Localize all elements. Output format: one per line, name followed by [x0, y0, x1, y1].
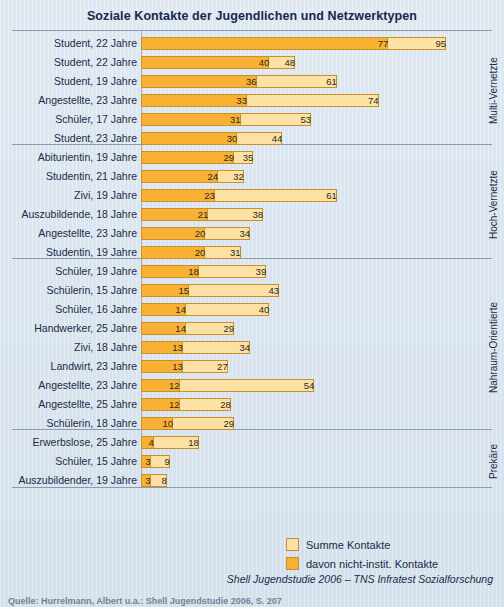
bar-value-total: 44: [237, 132, 282, 145]
bar-value-nicht-instit: 18: [141, 265, 199, 278]
chart-legend: Summe Kontakte davon nicht-instit. Konta…: [286, 536, 438, 574]
bar-group: 3153: [141, 113, 311, 126]
bar-value-nicht-instit: 29: [141, 151, 234, 164]
chart-source: Shell Jugendstudie 2006 – TNS Infratest …: [227, 573, 493, 585]
bar-value-nicht-instit: 12: [141, 379, 180, 392]
group-separator: [12, 30, 492, 31]
chart-row: Student, 22 Jahre7795: [0, 34, 504, 53]
row-label: Schüler, 17 Jahre: [0, 110, 137, 129]
chart-row: Angestellte, 23 Jahre1254: [0, 376, 504, 395]
row-label: Schüler, 19 Jahre: [0, 262, 137, 281]
legend-label-summe: Summe Kontakte: [306, 539, 390, 551]
chart-footnote: Quelle: Hurrelmann, Albert u.a.: Shell J…: [8, 596, 282, 606]
bar-value-nicht-instit: 21: [141, 208, 208, 221]
legend-item-summe: Summe Kontakte: [286, 536, 438, 553]
chart-row: Schüler, 16 Jahre1440: [0, 300, 504, 319]
chart-row: Studentin, 19 Jahre2031: [0, 243, 504, 262]
chart-row: Schülerin, 15 Jahre1543: [0, 281, 504, 300]
bar-value-nicht-instit: 33: [141, 94, 247, 107]
bar-value-nicht-instit: 40: [141, 56, 269, 69]
bar-group: 3044: [141, 132, 282, 145]
bar-value-nicht-instit: 4: [141, 436, 154, 449]
plot-area: Multi-VernetzteHoch-VernetzteNahraum-Ori…: [0, 28, 504, 536]
bar-value-total: 29: [186, 322, 234, 335]
row-label: Angestellte, 25 Jahre: [0, 395, 137, 414]
bar-value-nicht-instit: 13: [141, 360, 183, 373]
bar-value-total: 43: [189, 284, 279, 297]
row-label: Zivi, 18 Jahre: [0, 338, 137, 357]
bar-value-total: 54: [180, 379, 315, 392]
row-label: Studentin, 21 Jahre: [0, 167, 137, 186]
bar-group: 2031: [141, 246, 241, 259]
row-label: Student, 22 Jahre: [0, 53, 137, 72]
bar-value-nicht-instit: 77: [141, 37, 388, 50]
bar-value-total: 9: [151, 455, 170, 468]
chart-row: Angestellte, 25 Jahre1228: [0, 395, 504, 414]
chart-row: Angestellte, 23 Jahre3374: [0, 91, 504, 110]
bar-group: 1334: [141, 341, 250, 354]
chart-row: Erwerbslose, 25 Jahre418: [0, 433, 504, 452]
row-label: Landwirt, 23 Jahre: [0, 357, 137, 376]
bar-group: 1228: [141, 398, 231, 411]
row-label: Angestellte, 23 Jahre: [0, 376, 137, 395]
chart-title: Soziale Kontakte der Jugendlichen und Ne…: [0, 9, 504, 23]
legend-swatch-nicht-instit: [286, 557, 299, 570]
chart-row: Handwerker, 25 Jahre1429: [0, 319, 504, 338]
chart-row: Abiturientin, 19 Jahre2935: [0, 148, 504, 167]
chart-row: Schüler, 19 Jahre1839: [0, 262, 504, 281]
bar-value-nicht-instit: 14: [141, 303, 186, 316]
bar-group: 2034: [141, 227, 250, 240]
row-label: Abiturientin, 19 Jahre: [0, 148, 137, 167]
row-label: Student, 23 Jahre: [0, 129, 137, 148]
row-label: Student, 19 Jahre: [0, 72, 137, 91]
bar-value-nicht-instit: 30: [141, 132, 237, 145]
bar-value-total: 34: [183, 341, 250, 354]
bar-group: 2935: [141, 151, 253, 164]
bar-value-nicht-instit: 31: [141, 113, 241, 126]
bar-value-total: 31: [205, 246, 240, 259]
chart-row: Angestellte, 23 Jahre2034: [0, 224, 504, 243]
bar-group: 3374: [141, 94, 379, 107]
row-label: Angestellte, 23 Jahre: [0, 224, 137, 243]
chart-row: Auszubildender, 19 Jahre38: [0, 471, 504, 490]
chart-row: Student, 23 Jahre3044: [0, 129, 504, 148]
bar-value-total: 34: [205, 227, 250, 240]
row-label: Handwerker, 25 Jahre: [0, 319, 137, 338]
bar-group: 3661: [141, 75, 337, 88]
bar-value-nicht-instit: 3: [141, 455, 151, 468]
bar-value-nicht-instit: 23: [141, 189, 215, 202]
bar-value-total: 28: [180, 398, 231, 411]
row-label: Student, 22 Jahre: [0, 34, 137, 53]
bar-group: 1029: [141, 417, 234, 430]
bar-value-total: 8: [151, 474, 167, 487]
bar-group: 1543: [141, 284, 279, 297]
bar-value-total: 27: [183, 360, 228, 373]
bar-value-total: 61: [257, 75, 337, 88]
legend-label-nicht-instit: davon nicht-instit. Kontakte: [306, 558, 438, 570]
chart-page: Soziale Kontakte der Jugendlichen und Ne…: [0, 0, 504, 607]
chart-row: Zivi, 18 Jahre1334: [0, 338, 504, 357]
bar-value-total: 74: [247, 94, 379, 107]
row-label: Auszubildende, 18 Jahre: [0, 205, 137, 224]
bar-group: 2361: [141, 189, 337, 202]
row-label: Erwerbslose, 25 Jahre: [0, 433, 137, 452]
bar-group: 1254: [141, 379, 314, 392]
bar-value-nicht-instit: 20: [141, 246, 205, 259]
chart-row: Schülerin, 18 Jahre1029: [0, 414, 504, 433]
row-label: Auszubildender, 19 Jahre: [0, 471, 137, 490]
bar-value-nicht-instit: 10: [141, 417, 173, 430]
bar-value-total: 40: [186, 303, 269, 316]
bar-value-nicht-instit: 20: [141, 227, 205, 240]
bar-group: 1429: [141, 322, 234, 335]
row-label: Studentin, 19 Jahre: [0, 243, 137, 262]
chart-row: Zivi, 19 Jahre2361: [0, 186, 504, 205]
chart-row: Landwirt, 23 Jahre1327: [0, 357, 504, 376]
bar-value-total: 53: [241, 113, 312, 126]
bar-group: 38: [141, 474, 167, 487]
bar-value-nicht-instit: 24: [141, 170, 218, 183]
bar-group: 4048: [141, 56, 295, 69]
bar-value-total: 39: [199, 265, 266, 278]
bar-group: 418: [141, 436, 199, 449]
bar-value-total: 32: [218, 170, 244, 183]
bar-group: 2432: [141, 170, 244, 183]
